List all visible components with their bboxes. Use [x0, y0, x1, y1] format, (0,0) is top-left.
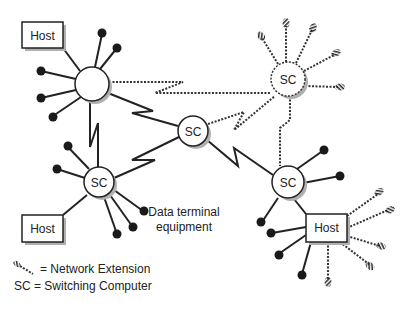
extension-end-icon	[384, 205, 396, 215]
extension-end-icon	[375, 241, 387, 251]
host-lower-right: Host	[306, 214, 350, 245]
annotation-line-2: equipment	[156, 220, 213, 234]
extension-end-icon	[330, 47, 342, 58]
legend: = Network Extension SC = Switching Compu…	[14, 261, 152, 295]
terminal-dot	[113, 230, 122, 239]
extension-end-icon	[335, 84, 345, 91]
sc-lower-left: SC	[84, 167, 117, 200]
terminal-dot	[37, 67, 46, 76]
extension-end-icon	[283, 18, 290, 28]
extension-end-icon	[325, 277, 332, 287]
sc-top-right: SC	[271, 62, 308, 99]
annotation-line-1: Data terminal	[148, 205, 219, 219]
extension-end-icon	[255, 30, 266, 42]
sc-label: SC	[185, 125, 202, 139]
extension-end-icon	[308, 22, 319, 34]
sc-center: SC	[178, 116, 211, 149]
sc-lower-right: SC	[272, 166, 307, 201]
terminal-dot	[275, 251, 284, 260]
terminal-dot	[267, 229, 276, 238]
terminal-dot	[320, 146, 329, 155]
sc-label: SC	[280, 73, 297, 87]
host-label: Host	[30, 29, 55, 43]
terminal-dot	[113, 44, 122, 53]
terminal-dot	[49, 113, 58, 122]
terminal-dot	[257, 218, 266, 227]
terminal-dot	[336, 172, 345, 181]
host-label: Host	[314, 221, 339, 235]
host-lower-left: Host	[22, 215, 66, 245]
terminal-dot	[298, 271, 307, 280]
legend-row-network-extension: = Network Extension	[14, 261, 152, 278]
legend-switching-computer: SC = Switching Computer	[14, 278, 152, 295]
terminal-dot	[64, 142, 73, 151]
extension-end-icon	[373, 186, 385, 197]
terminal-dot	[98, 29, 107, 38]
legend-row-switching-computer: SC = Switching Computer	[14, 278, 152, 295]
terminal-dot	[129, 223, 138, 232]
terminal-dot	[37, 94, 46, 103]
terminal-dot	[53, 165, 62, 174]
sc-label: SC	[91, 176, 108, 190]
legend-network-extension: = Network Extension	[40, 261, 150, 278]
sc-label: SC	[280, 176, 297, 190]
host-top-left: Host	[22, 22, 66, 51]
host-label: Host	[30, 222, 55, 236]
terminal-dot	[140, 207, 149, 216]
